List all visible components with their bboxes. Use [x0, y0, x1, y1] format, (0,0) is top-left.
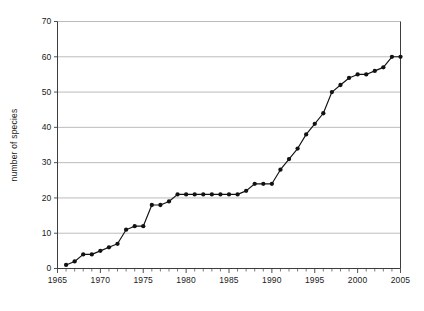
- data-point: [150, 203, 154, 207]
- data-point: [390, 55, 394, 59]
- data-point: [373, 69, 377, 73]
- data-point: [81, 252, 85, 256]
- data-point: [167, 199, 171, 203]
- data-point: [355, 72, 359, 76]
- x-tick-label-1970: 1970: [91, 275, 111, 285]
- series-markers: [64, 55, 403, 267]
- y-axis-ticks: [54, 22, 58, 269]
- data-point: [90, 252, 94, 256]
- y-tick-label-60: 60: [42, 52, 52, 62]
- data-point: [313, 122, 317, 126]
- data-point: [184, 192, 188, 196]
- y-tick-label-30: 30: [42, 157, 52, 167]
- data-point: [287, 157, 291, 161]
- y-tick-label-10: 10: [42, 228, 52, 238]
- y-axis-title: number of species: [9, 109, 19, 182]
- data-point: [210, 192, 214, 196]
- data-point: [227, 192, 231, 196]
- y-tick-label-20: 20: [42, 193, 52, 203]
- x-axis-tick-labels: 196519701975198019851990199520002005: [48, 275, 411, 285]
- data-point: [253, 182, 257, 186]
- data-point: [133, 224, 137, 228]
- data-point: [158, 203, 162, 207]
- data-point: [73, 259, 77, 263]
- species-accumulation-line-chart: 010203040506070 196519701975198019851990…: [0, 0, 424, 311]
- data-point: [201, 192, 205, 196]
- data-point: [218, 192, 222, 196]
- chart-container: 010203040506070 196519701975198019851990…: [0, 0, 424, 311]
- data-point: [235, 192, 239, 196]
- data-point: [115, 242, 119, 246]
- data-point: [98, 249, 102, 253]
- axes: [58, 22, 401, 269]
- data-point: [304, 132, 308, 136]
- x-tick-label-1985: 1985: [219, 275, 239, 285]
- data-point: [381, 65, 385, 69]
- data-point: [124, 228, 128, 232]
- data-point: [347, 76, 351, 80]
- data-point: [295, 146, 299, 150]
- y-tick-label-50: 50: [42, 87, 52, 97]
- data-point: [398, 55, 402, 59]
- data-point: [338, 83, 342, 87]
- x-tick-label-2000: 2000: [348, 275, 368, 285]
- y-tick-label-0: 0: [47, 263, 52, 273]
- y-tick-label-70: 70: [42, 16, 52, 26]
- data-point: [107, 245, 111, 249]
- data-point: [175, 192, 179, 196]
- x-tick-label-1975: 1975: [133, 275, 153, 285]
- x-tick-label-1990: 1990: [262, 275, 282, 285]
- y-axis-tick-labels: 010203040506070: [42, 16, 52, 273]
- gridlines: [58, 22, 401, 234]
- x-tick-label-2005: 2005: [391, 275, 411, 285]
- x-tick-label-1980: 1980: [176, 275, 196, 285]
- data-point: [270, 182, 274, 186]
- series-line-path: [66, 57, 400, 265]
- y-tick-label-40: 40: [42, 122, 52, 132]
- data-point: [64, 263, 68, 267]
- data-point: [193, 192, 197, 196]
- data-series: [64, 55, 403, 267]
- data-point: [244, 189, 248, 193]
- data-point: [330, 90, 334, 94]
- data-point: [141, 224, 145, 228]
- x-tick-label-1965: 1965: [48, 275, 68, 285]
- data-point: [321, 111, 325, 115]
- data-point: [364, 72, 368, 76]
- data-point: [261, 182, 265, 186]
- data-point: [278, 168, 282, 172]
- x-tick-label-1995: 1995: [305, 275, 325, 285]
